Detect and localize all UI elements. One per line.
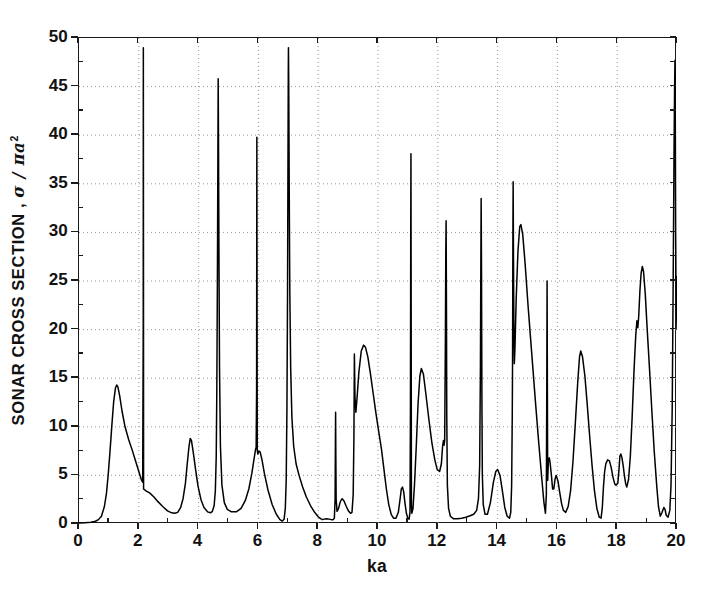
y-tick-mark	[71, 182, 78, 184]
x-tick-minor	[526, 518, 527, 523]
x-tick-minor	[347, 518, 348, 523]
y-tick-label-25: 25	[49, 270, 68, 290]
y-tick-minor-right	[670, 207, 676, 208]
y-tick-minor-right	[670, 182, 676, 183]
y-tick-minor-right	[670, 279, 676, 280]
y-tick-minor-right	[670, 377, 676, 378]
x-tick-minor	[107, 518, 108, 523]
y-tick-minor-right	[670, 498, 676, 499]
x-tick-mark	[496, 523, 498, 529]
x-tick-mark	[436, 523, 438, 529]
y-tick-label-40: 40	[49, 124, 68, 144]
x-tick-label-2: 2	[133, 531, 142, 551]
x-tick-minor-top	[675, 37, 676, 43]
y-tick-minor-right	[670, 328, 676, 329]
x-tick-mark	[615, 523, 617, 529]
y-tick-mark	[71, 85, 78, 87]
x-tick-mark	[316, 523, 318, 529]
y-tick-minor-right	[670, 109, 676, 110]
y-tick-minor	[78, 401, 83, 402]
x-tick-label-16: 16	[547, 531, 566, 551]
y-tick-minor	[78, 498, 83, 499]
x-tick-minor	[466, 518, 467, 523]
x-tick-label-14: 14	[487, 531, 506, 551]
y-tick-mark	[71, 133, 78, 135]
y-tick-minor	[78, 207, 83, 208]
grid-lines	[79, 38, 677, 524]
y-tick-label-5: 5	[58, 464, 68, 484]
x-tick-label-10: 10	[368, 531, 387, 551]
y-tick-label-50: 50	[49, 27, 68, 47]
y-tick-mark	[71, 328, 78, 330]
data-series-line	[79, 48, 677, 523]
y-tick-mark	[71, 231, 78, 233]
x-tick-mark	[197, 523, 199, 529]
x-tick-minor-top	[137, 37, 138, 43]
x-tick-label-0: 0	[73, 531, 82, 551]
y-tick-minor-right	[670, 352, 676, 353]
x-tick-minor	[586, 518, 587, 523]
x-tick-mark	[675, 523, 677, 529]
x-tick-label-4: 4	[193, 531, 202, 551]
y-tick-minor-right	[670, 474, 676, 475]
y-tick-minor	[78, 352, 83, 353]
y-tick-mark	[71, 376, 78, 378]
x-tick-label-8: 8	[312, 531, 321, 551]
x-tick-minor-top	[77, 37, 78, 43]
y-tick-minor-right	[670, 134, 676, 135]
y-tick-minor-right	[670, 255, 676, 256]
x-tick-minor	[287, 518, 288, 523]
y-tick-minor-right	[670, 158, 676, 159]
y-tick-minor-right	[670, 425, 676, 426]
x-tick-minor-top	[317, 37, 318, 43]
y-tick-minor	[78, 255, 83, 256]
x-tick-minor	[406, 518, 407, 523]
y-tick-minor	[78, 61, 83, 62]
x-tick-minor-top	[616, 37, 617, 43]
x-tick-minor-top	[197, 37, 198, 43]
x-tick-label-18: 18	[607, 531, 626, 551]
x-tick-minor-top	[376, 37, 377, 43]
x-tick-mark	[137, 523, 139, 529]
y-tick-label-35: 35	[49, 173, 68, 193]
y-tick-mark	[71, 425, 78, 427]
x-tick-label-6: 6	[253, 531, 262, 551]
y-tick-label-15: 15	[49, 367, 68, 387]
x-tick-mark	[376, 523, 378, 529]
x-tick-mark	[77, 523, 79, 529]
x-tick-minor-top	[257, 37, 258, 43]
x-tick-label-20: 20	[667, 531, 686, 551]
y-tick-mark	[71, 474, 78, 476]
y-tick-minor-right	[670, 401, 676, 402]
y-tick-mark	[71, 279, 78, 281]
y-tick-minor-right	[670, 231, 676, 232]
y-tick-minor	[78, 450, 83, 451]
y-tick-minor-right	[670, 85, 676, 86]
x-tick-minor-top	[436, 37, 437, 43]
x-tick-minor-top	[496, 37, 497, 43]
y-tick-label-10: 10	[49, 416, 68, 436]
x-tick-minor-top	[556, 37, 557, 43]
y-tick-label-20: 20	[49, 319, 68, 339]
y-axis: 05101520253035404550	[0, 0, 78, 596]
y-tick-label-30: 30	[49, 221, 68, 241]
x-tick-minor	[227, 518, 228, 523]
y-tick-minor	[78, 304, 83, 305]
y-tick-minor	[78, 109, 83, 110]
x-tick-mark	[257, 523, 259, 529]
x-tick-mark	[556, 523, 558, 529]
y-tick-label-0: 0	[58, 513, 68, 533]
y-tick-label-45: 45	[49, 76, 68, 96]
y-tick-minor	[78, 158, 83, 159]
x-axis-label: ka	[78, 556, 676, 577]
x-tick-label-12: 12	[427, 531, 446, 551]
x-tick-minor	[167, 518, 168, 523]
y-tick-minor-right	[670, 304, 676, 305]
y-tick-minor-right	[670, 61, 676, 62]
plot-area	[78, 37, 676, 523]
plot-svg	[79, 38, 677, 524]
y-tick-minor-right	[670, 450, 676, 451]
x-tick-minor	[646, 518, 647, 523]
sonar-cross-section-figure: SONAR CROSS SECTION , σ / πa2 0510152025…	[0, 0, 707, 596]
